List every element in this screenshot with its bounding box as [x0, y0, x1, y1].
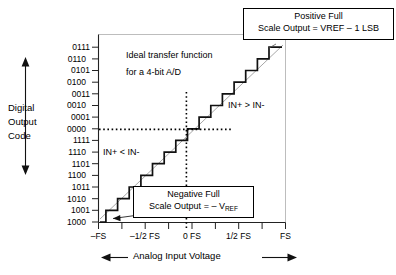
y-tick-label: 0101 — [56, 66, 90, 75]
y-tick-label: 1101 — [56, 160, 90, 169]
x-axis-ticks — [99, 223, 286, 230]
y-tick-label: 0110 — [52, 55, 86, 64]
y-tick-label: 1010 — [52, 195, 86, 204]
y-tick-label: 0010 — [52, 101, 86, 110]
positive-full-scale-callout: Positive Full Scale Output = VREF – 1 LS… — [243, 8, 394, 40]
y-tick-label: 0100 — [52, 78, 86, 87]
vref-subscript: REF — [225, 205, 238, 212]
in-plus-less-label: IN+ < IN- — [103, 148, 140, 157]
transfer-function-note-line-1: Ideal transfer function — [126, 51, 213, 60]
positive-callout-line-2: Scale Output = VREF – 1 LSB — [248, 23, 389, 35]
ad-transfer-function-figure: 0111 0110 0101 0100 0011 0010 0001 0000 … — [0, 0, 396, 275]
transfer-function-note-line-2: for a 4-bit A/D — [126, 68, 181, 77]
y-tick-label: 0111 — [56, 43, 90, 52]
x-tick-label: FS — [263, 232, 309, 241]
x-axis-title: Analog Input Voltage — [133, 251, 221, 261]
y-tick-label: 1000 — [52, 218, 86, 227]
x-tick-label: 1/2 FS — [216, 232, 262, 241]
y-tick-label: 1111 — [56, 136, 90, 145]
y-axis-title-line-2: Output — [8, 117, 37, 127]
negative-full-scale-callout: Negative Full Scale Output = – VREF — [133, 186, 254, 218]
negative-callout-line-2-text: Scale Output = – V — [149, 201, 225, 211]
x-tick-label: 0 FS — [169, 232, 215, 241]
y-tick-label: 1110 — [52, 148, 86, 157]
y-tick-label: 1011 — [56, 183, 90, 192]
y-tick-label: 0001 — [56, 113, 90, 122]
negative-callout-line-2: Scale Output = – VREF — [138, 201, 249, 213]
y-tick-label: 1001 — [56, 206, 90, 215]
x-tick-label: –FS — [76, 232, 122, 241]
positive-callout-line-1: Positive Full — [248, 11, 389, 23]
negative-callout-line-1: Negative Full — [138, 189, 249, 201]
y-axis-title-line-1: Digital — [8, 103, 34, 113]
in-plus-greater-label: IN+ > IN- — [228, 101, 265, 110]
y-axis-title-line-3: Code — [8, 131, 31, 141]
x-tick-label: –1/2 FS — [122, 232, 168, 241]
y-tick-label: 0011 — [56, 90, 90, 99]
y-axis-ticks — [92, 47, 99, 222]
y-tick-label: 1100 — [52, 171, 86, 180]
y-tick-label: 0000 — [52, 125, 86, 134]
